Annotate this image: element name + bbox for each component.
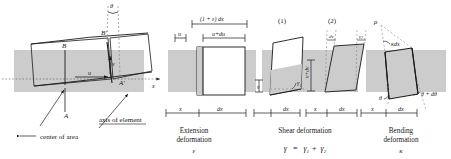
extension-element-left-edge (197, 47, 203, 95)
bending-panel: ρ κdx θ θ + dθ x dx Bending deformation … (361, 18, 446, 155)
shear-panel: (1) (2) γ1 v+dv v dv γ2 x d (254, 17, 366, 155)
label-u-du: u+du (212, 31, 225, 37)
label-base-dx-extension: dx (217, 106, 223, 112)
label-theta-bending: θ (379, 95, 382, 101)
label-u-small: u (178, 31, 181, 37)
label-v-shear: v (257, 84, 260, 90)
bending-rho-line-left (381, 25, 385, 52)
caption-extension-2: deformation (176, 136, 212, 144)
shear2-dash-far-right (364, 30, 366, 46)
label-base-dx-shear1: dx (283, 106, 289, 112)
label-extension-dim-top: (1 + ε) dx (200, 16, 224, 23)
label-rho: ρ (373, 18, 378, 26)
label-A: A (63, 112, 69, 120)
label-base-x-bending: x (370, 106, 374, 112)
label-shear-part-1: (1) (278, 17, 287, 25)
label-base-dx-bending: dx (398, 106, 404, 112)
label-dv-left: dv (329, 34, 335, 39)
label-v: v (112, 61, 115, 67)
label-theta-main: θ (110, 2, 114, 9)
symbol-epsilon: ε (193, 147, 196, 155)
label-B-prime: B′ (101, 29, 107, 37)
caption-extension-1: Extension (180, 127, 209, 135)
bending-kappa-arc (383, 41, 390, 44)
main-panel: θ x u v B B′ A A′ center of area axis of… (2, 2, 160, 141)
beam-deformation-figure: θ x u v B B′ A A′ center of area axis of… (0, 0, 451, 159)
extension-panel: (1 + ε) dx u+du u x dx Extension deforma… (166, 16, 256, 155)
extension-element-rect (197, 47, 245, 95)
label-axis-x: x (151, 83, 155, 89)
label-gamma2-top: γ2 (359, 34, 363, 40)
theta-arc (108, 12, 118, 13)
label-B: B (62, 42, 67, 50)
caption-bending-1: Bending (389, 127, 414, 135)
label-base-dx-shear2: dx (339, 106, 345, 112)
label-u: u (88, 70, 91, 76)
callout-center-of-area: center of area (40, 133, 79, 141)
label-base-x-extension: x (178, 106, 182, 112)
label-kappa-dx: κdx (391, 41, 400, 47)
label-base-x-shear2: x (313, 106, 317, 112)
caption-shear: Shear deformation (278, 127, 332, 135)
caption-bending-2: deformation (383, 136, 419, 144)
leader-center-of-area (40, 90, 64, 126)
label-shear-part-2: (2) (328, 17, 337, 25)
formula-shear: γ = γ1 + γ2 (284, 144, 327, 155)
callout-axis-of-element: axis of element (99, 116, 142, 124)
label-theta-plus-dtheta: θ + dθ (421, 91, 437, 97)
label-A-prime: A′ (118, 79, 125, 87)
symbol-kappa: κ (399, 147, 403, 155)
label-v-dv-shear: v+dv (304, 66, 310, 78)
shear2-dash-mid (334, 30, 336, 48)
